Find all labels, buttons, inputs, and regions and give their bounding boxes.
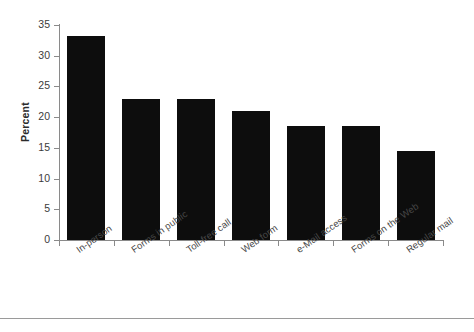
x-tick-mark [224,241,225,246]
bar [122,99,160,240]
bar [67,36,105,240]
bar-chart-figure: Percent 05101520253035 In-personForms in… [0,0,474,332]
y-tick-label: 35 [38,18,50,30]
x-tick-mark [443,241,444,246]
y-tick-label: 20 [38,110,50,122]
bar [397,151,435,240]
y-axis-title-label: Percent [19,102,31,142]
y-tick-label: 0 [44,233,50,245]
footer-rule [0,318,474,319]
x-tick-mark [278,241,279,246]
y-tick-label: 10 [38,172,50,184]
y-tick-label: 5 [44,202,50,214]
x-tick-mark [333,241,334,246]
y-tick-label: 15 [38,141,50,153]
bar [342,126,380,240]
x-tick-mark [59,241,60,246]
y-tick-label: 25 [38,79,50,91]
bar [232,111,270,240]
bar [287,126,325,240]
x-tick-mark [388,241,389,246]
y-tick-label: 30 [38,49,50,61]
x-tick-mark [169,241,170,246]
plot-area [59,25,443,240]
x-tick-mark [114,241,115,246]
